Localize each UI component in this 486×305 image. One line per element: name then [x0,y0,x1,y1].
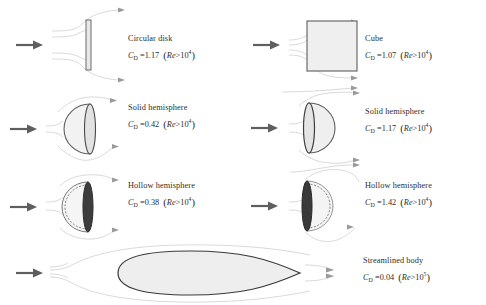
solid-hemisphere-body [64,104,95,154]
inflow-arrow [10,125,37,134]
cd-subscript: D [371,202,375,208]
label-solid-hemisphere-left: Solid hemisphere CD =0.42 (Re>104) [128,102,195,133]
label-hollow-hemisphere-left: Hollow hemisphere CD =0.38 (Re>104) [128,180,195,211]
paren-close: ) [426,272,430,283]
label-cube: Cube CD =1.07 (Re>104) [365,33,432,64]
cube-body [307,21,357,71]
shape-name: Hollow hemisphere [128,180,195,191]
re-base: 10 [417,198,425,207]
reynolds-symbol: Re [402,273,411,282]
shape-cell-hollow-hemisphere-open-upstream: Hollow hemisphere CD =1.42 (Re>104) [243,168,486,244]
flat-face-ellipse [304,103,315,153]
shape-name: Solid hemisphere [365,106,432,117]
drag-coefficient-expression: CD =0.42 (Re>104) [128,115,195,133]
shape-name: Circular disk [128,33,195,44]
paren-close: ) [428,123,432,134]
re-base: 10 [180,120,188,129]
solid-hemisphere-body [304,103,336,153]
cd-subscript: D [371,128,375,134]
shape-name: Streamlined body [363,255,430,266]
drag-coefficient-expression: CD =1.07 (Re>104) [365,46,432,64]
paren-close: ) [428,197,432,208]
streamline-arrowheads [110,98,119,149]
cd-value: 1.07 [382,51,397,60]
cd-value: 0.38 [145,198,160,207]
inflow-arrow [251,202,278,211]
label-circular-disk: Circular disk CD =1.17 (Re>104) [128,33,195,64]
drag-coefficient-expression: CD =0.38 (Re>104) [128,193,195,211]
re-base: 10 [415,273,423,282]
streamlines [52,10,118,80]
hollow-hemisphere-body [62,182,93,232]
label-hollow-hemisphere-right: Hollow hemisphere CD =1.42 (Re>104) [365,180,432,211]
re-base: 10 [417,51,425,60]
cd-subscript: D [371,55,375,61]
rim-ellipse [83,182,93,232]
drag-coefficient-expression: CD =0.04 (Re>105) [363,268,430,286]
shape-name: Solid hemisphere [128,102,195,113]
shape-name: Cube [365,33,432,44]
shape-cell-circular-disk: Circular disk CD =1.17 (Re>104) [0,0,243,90]
cd-value: 0.04 [380,273,395,282]
paren-close: ) [191,119,195,130]
streamlined-body-outline [118,251,300,295]
circular-disk-body [86,20,91,70]
solid-hemisphere-dome-upstream-diagram [0,88,243,170]
cd-subscript: D [369,277,373,283]
reynolds-symbol: Re [167,198,176,207]
reynolds-symbol: Re [404,51,413,60]
shape-name: Hollow hemisphere [365,180,432,191]
hollow-hemisphere-dome-upstream-diagram [0,168,243,244]
cd-value: 1.42 [382,198,397,207]
rim-ellipse [302,181,312,231]
cd-value: 0.42 [145,120,160,129]
flat-face-ellipse [85,104,96,154]
reynolds-symbol: Re [404,124,413,133]
label-solid-hemisphere-right: Solid hemisphere CD =1.17 (Re>104) [365,106,432,137]
label-streamlined-body: Streamlined body CD =0.04 (Re>105) [363,255,430,286]
drag-coefficient-expression: CD =1.42 (Re>104) [365,193,432,211]
drag-coefficient-expression: CD =1.17 (Re>104) [128,46,195,64]
re-base: 10 [180,51,188,60]
cd-value: 1.17 [382,124,397,133]
re-base: 10 [180,198,188,207]
inflow-arrow [16,269,43,278]
cd-value: 1.17 [145,51,160,60]
shape-cell-solid-hemisphere-dome-upstream: Solid hemisphere CD =0.42 (Re>104) [0,88,243,170]
shape-cell-solid-hemisphere-flat-upstream: Solid hemisphere CD =1.17 (Re>104) [243,88,486,170]
paren-close: ) [191,50,195,61]
hollow-hemisphere-body [302,181,333,231]
inflow-arrow [251,124,278,133]
reynolds-symbol: Re [167,120,176,129]
cd-subscript: D [134,55,138,61]
re-base: 10 [417,124,425,133]
drag-coefficient-figure: Circular disk CD =1.17 (Re>104) [0,0,486,305]
shape-cell-hollow-hemisphere-dome-upstream: Hollow hemisphere CD =0.38 (Re>104) [0,168,243,244]
paren-close: ) [428,50,432,61]
streamline-arrowheads [112,178,119,233]
cd-subscript: D [134,202,138,208]
inflow-arrow [253,41,280,50]
circular-disk-diagram [0,0,243,90]
streamline-arrowheads [353,91,360,168]
reynolds-symbol: Re [404,198,413,207]
reynolds-symbol: Re [167,51,176,60]
streamline-arrowheads [347,225,354,230]
drag-coefficient-expression: CD =1.17 (Re>104) [365,119,432,137]
inflow-arrow [16,41,43,50]
streamline-arrowheads [118,8,125,83]
inflow-arrow [10,203,37,212]
paren-close: ) [191,197,195,208]
shape-cell-streamlined-body: Streamlined body CD =0.04 (Re>105) [0,243,486,305]
shape-cell-cube: Cube CD =1.07 (Re>104) [243,0,486,90]
cd-subscript: D [134,124,138,130]
